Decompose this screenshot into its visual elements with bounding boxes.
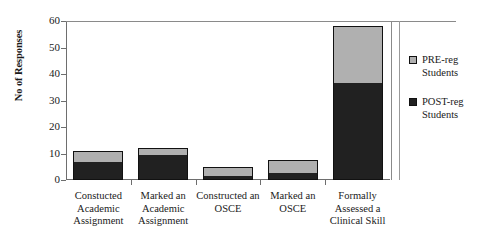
y-axis-tick-label: 40 bbox=[26, 68, 60, 79]
stacked-bar bbox=[333, 26, 383, 180]
x-axis-category-label: Constructed anOSCE bbox=[192, 190, 265, 215]
y-axis-tick-label: 0 bbox=[26, 174, 60, 185]
x-axis-label-line: Constructed an bbox=[192, 190, 265, 203]
bar-slot bbox=[138, 21, 188, 180]
stacked-bar bbox=[203, 167, 253, 180]
x-axis-category-label: Marked anOSCE bbox=[256, 190, 329, 215]
bar-segment-pre-reg bbox=[74, 152, 122, 163]
x-axis-tick-mark bbox=[131, 180, 132, 185]
x-axis-label-line: Academic bbox=[127, 203, 200, 216]
legend-divider bbox=[399, 21, 400, 180]
stacked-bar bbox=[73, 151, 123, 180]
legend-swatch-icon bbox=[409, 98, 417, 106]
bar-segment-post-reg bbox=[269, 173, 317, 179]
x-axis-label-line: OSCE bbox=[192, 203, 265, 216]
x-axis-label-line: Assignment bbox=[62, 215, 135, 228]
bar-slot bbox=[268, 21, 318, 180]
legend-swatch-icon bbox=[409, 56, 417, 64]
x-axis-category-label: FormallyAssessed aClinical Skill bbox=[321, 190, 394, 228]
bar-segment-post-reg bbox=[334, 83, 382, 179]
chart-frame-right bbox=[391, 21, 392, 180]
legend-label-line: Students bbox=[422, 67, 497, 80]
x-axis-label-line: Marked an bbox=[256, 190, 329, 203]
x-axis-label-line: Assessed a bbox=[321, 203, 394, 216]
legend-entry: PRE-regStudents bbox=[409, 54, 497, 79]
x-axis-tick-mark bbox=[196, 180, 197, 185]
x-axis-label-line: OSCE bbox=[256, 203, 329, 216]
y-axis-tick-label: 10 bbox=[26, 148, 60, 159]
y-axis-tick-mark bbox=[61, 180, 66, 181]
x-axis-label-line: Constucted bbox=[62, 190, 135, 203]
legend-label-line: PRE-reg bbox=[422, 54, 497, 67]
x-axis-category-label: ConstuctedAcademicAssignment bbox=[62, 190, 135, 228]
bar-chart: No of Responses 6050403020100 Constucted… bbox=[0, 0, 498, 250]
y-axis-tick-label: 20 bbox=[26, 121, 60, 132]
bar-segment-post-reg bbox=[204, 176, 252, 179]
stacked-bar bbox=[268, 160, 318, 180]
bar-segment-pre-reg bbox=[334, 27, 382, 83]
stacked-bar bbox=[138, 148, 188, 180]
legend-label-line: Students bbox=[422, 109, 497, 122]
bar-series-group bbox=[66, 21, 390, 180]
x-axis-category-label: Marked anAcademicAssignment bbox=[127, 190, 200, 228]
legend-entry: POST-regStudents bbox=[409, 96, 497, 121]
bar-segment-pre-reg bbox=[204, 168, 252, 176]
bar-slot bbox=[73, 21, 123, 180]
y-axis-tick-label: 60 bbox=[26, 15, 60, 26]
x-axis-tick-mark bbox=[260, 180, 261, 185]
y-axis-tick-label: 30 bbox=[26, 95, 60, 106]
y-axis-tick-label: 50 bbox=[26, 42, 60, 53]
bar-slot bbox=[203, 21, 253, 180]
chart-legend: PRE-regStudentsPOST-regStudents bbox=[409, 54, 497, 138]
bar-segment-post-reg bbox=[74, 162, 122, 179]
x-axis-label-line: Academic bbox=[62, 203, 135, 216]
legend-label-line: POST-reg bbox=[422, 96, 497, 109]
bar-segment-pre-reg bbox=[269, 161, 317, 173]
x-axis-label-line: Assignment bbox=[127, 215, 200, 228]
x-axis-label-line: Clinical Skill bbox=[321, 215, 394, 228]
y-axis-title: No of Responses bbox=[13, 11, 24, 121]
x-axis-label-line: Formally bbox=[321, 190, 394, 203]
bar-slot bbox=[333, 21, 383, 180]
x-axis-tick-mark bbox=[325, 180, 326, 185]
bar-segment-post-reg bbox=[139, 155, 187, 180]
x-axis-label-line: Marked an bbox=[127, 190, 200, 203]
